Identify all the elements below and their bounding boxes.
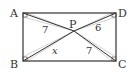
segment-ap (23, 13, 74, 31)
segment-cp (74, 31, 116, 61)
segment-bp (23, 31, 74, 61)
vertex-label-a: A (9, 7, 19, 20)
segment-label-ap: 7 (42, 24, 48, 35)
segment-label-cp: 7 (86, 45, 92, 56)
vertex-label-d: D (118, 7, 127, 20)
segment-label-dp: 6 (95, 22, 101, 33)
vertex-label-c: C (118, 58, 126, 71)
rectangle-diagram: A D B C P 7 6 x 7 (0, 0, 134, 72)
vertex-label-b: B (10, 58, 18, 71)
segment-label-bp: x (52, 45, 58, 56)
point-label-p: P (69, 18, 77, 31)
